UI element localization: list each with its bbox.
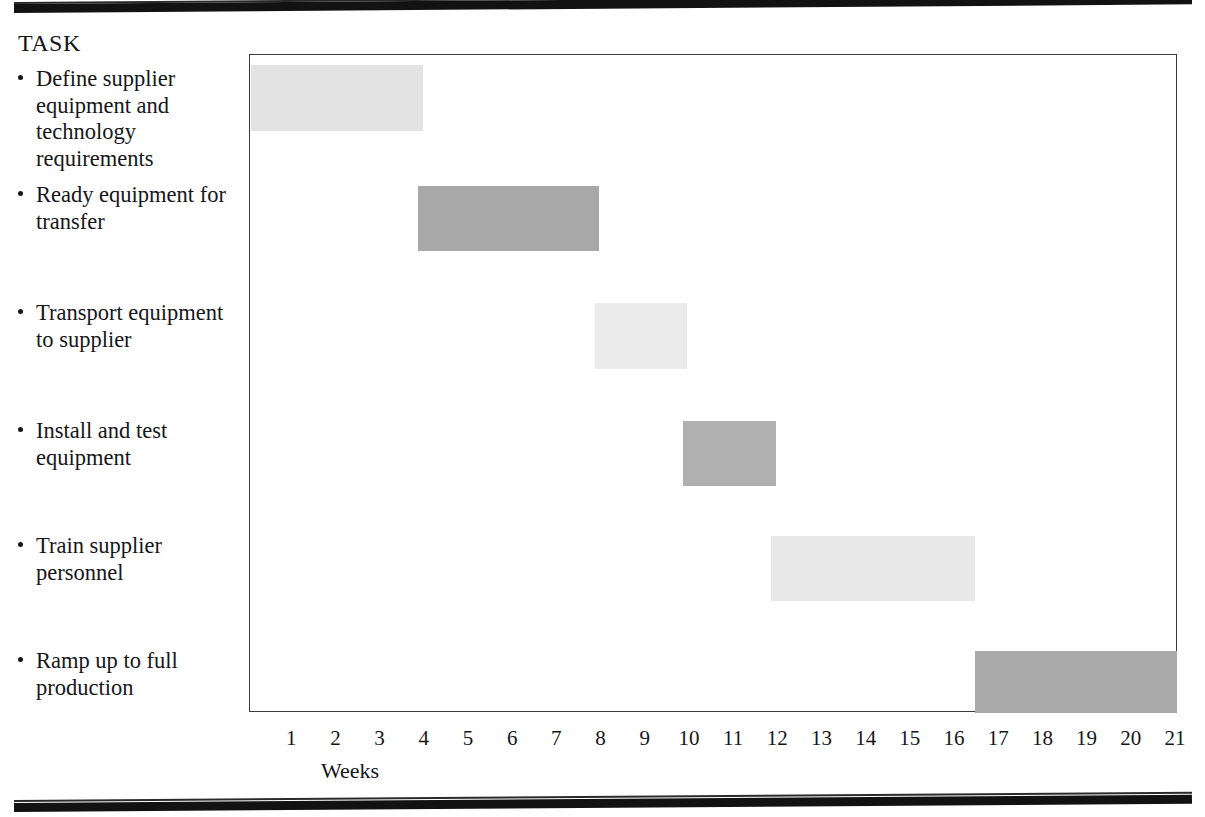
task-label: Ready equipment for transfer <box>36 182 243 235</box>
x-axis-title-text: Weeks <box>321 758 379 784</box>
gantt-bar <box>418 186 599 251</box>
task-list-item: Define supplier equipment and technology… <box>18 66 243 172</box>
x-tick-label: 10 <box>678 728 699 749</box>
x-tick-label: 20 <box>1120 728 1141 749</box>
x-tick-label: 16 <box>944 728 965 749</box>
gantt-bar <box>595 303 688 369</box>
task-list-item: Transport equipment to supplier <box>18 300 243 353</box>
x-tick-label: 1 <box>286 728 297 749</box>
bullet-icon <box>18 182 27 235</box>
task-label: Transport equipment to supplier <box>36 300 243 353</box>
task-list-item: Train supplier personnel <box>18 533 243 586</box>
task-label: Train supplier personnel <box>36 533 243 586</box>
x-tick-label: 7 <box>551 728 562 749</box>
x-tick-label: 6 <box>507 728 518 749</box>
task-column-header: TASK <box>18 30 81 57</box>
x-tick-label: 19 <box>1076 728 1097 749</box>
task-list-item: Ramp up to full production <box>18 648 243 701</box>
task-label: Install and test equipment <box>36 418 243 471</box>
bullet-icon <box>18 648 27 701</box>
x-tick-label: 21 <box>1164 728 1185 749</box>
x-tick-label: 8 <box>595 728 606 749</box>
x-tick-label: 9 <box>639 728 650 749</box>
task-list-item: Ready equipment for transfer <box>18 182 243 235</box>
x-tick-label: 4 <box>419 728 430 749</box>
task-label: Ramp up to full production <box>36 648 243 701</box>
x-tick-label: 18 <box>1032 728 1053 749</box>
gantt-chart-figure: TASK Define supplier equipment and techn… <box>0 0 1205 817</box>
gantt-bar <box>251 65 423 131</box>
x-tick-label: 17 <box>988 728 1009 749</box>
x-tick-label: 15 <box>899 728 920 749</box>
x-tick-label: 5 <box>463 728 474 749</box>
bullet-icon <box>18 300 27 353</box>
x-tick-label: 11 <box>723 728 743 749</box>
gantt-bar <box>975 651 1177 713</box>
x-tick-label: 13 <box>811 728 832 749</box>
gantt-bars-container <box>250 55 1176 711</box>
bullet-icon <box>18 418 27 471</box>
x-tick-label: 3 <box>374 728 385 749</box>
x-axis-tick-labels: 123456789101112131415161718192021 <box>249 714 1179 750</box>
gantt-bar <box>683 421 776 486</box>
x-axis-title: Weeks <box>0 758 1205 784</box>
task-list-item: Install and test equipment <box>18 418 243 471</box>
bullet-icon <box>18 66 27 172</box>
x-tick-label: 12 <box>767 728 788 749</box>
gantt-bar <box>771 536 974 601</box>
x-tick-label: 14 <box>855 728 876 749</box>
x-tick-label: 2 <box>330 728 341 749</box>
gantt-plot-area <box>249 54 1177 712</box>
task-label: Define supplier equipment and technology… <box>36 66 243 172</box>
top-rule <box>14 0 1192 13</box>
bullet-icon <box>18 533 27 586</box>
